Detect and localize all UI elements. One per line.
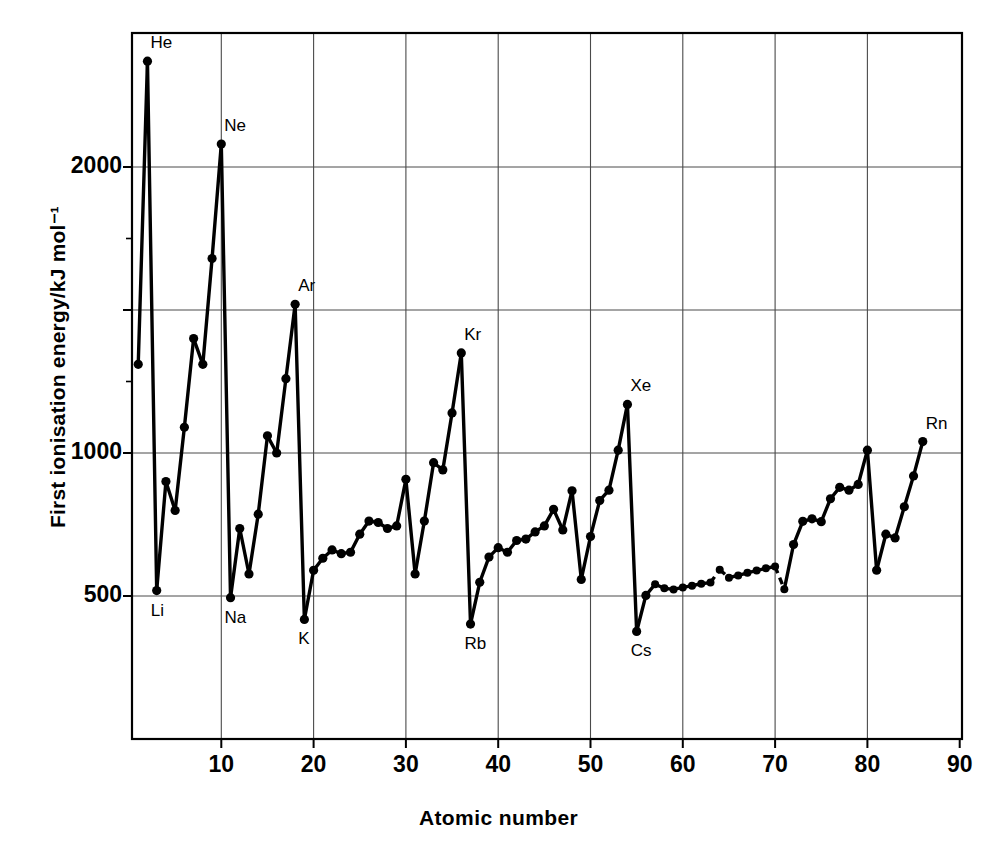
x-tick-label-60: 60 (653, 751, 713, 778)
data-point (743, 569, 751, 577)
data-point (641, 591, 650, 600)
data-point (789, 540, 798, 549)
data-point (725, 574, 733, 582)
data-point (512, 536, 521, 545)
data-point (734, 571, 742, 579)
y-tick-label-500: 500 (20, 581, 122, 608)
x-tick-label-80: 80 (837, 751, 897, 778)
data-point (355, 530, 364, 539)
data-point (198, 360, 207, 369)
data-point (346, 548, 355, 557)
x-tick-label-90: 90 (930, 751, 990, 778)
plot-frame (132, 33, 962, 739)
data-point (152, 586, 161, 595)
data-point (263, 431, 272, 440)
data-point (688, 582, 696, 590)
element-label-rn: Rn (926, 414, 948, 434)
y-axis-title: First ionisation energy/kJ mol⁻¹ (46, 157, 70, 577)
data-point (180, 423, 189, 432)
data-point (577, 575, 586, 584)
element-label-he: He (150, 33, 172, 53)
data-point (567, 486, 576, 495)
data-point (272, 448, 281, 457)
data-point (807, 514, 816, 523)
data-point (670, 585, 678, 593)
x-tick-label-30: 30 (376, 751, 436, 778)
data-point (679, 583, 687, 591)
data-point (161, 477, 170, 486)
data-point (697, 580, 705, 588)
data-point (632, 627, 641, 636)
element-label-cs: Cs (631, 641, 652, 661)
data-point (494, 543, 503, 552)
gridlines (132, 33, 962, 739)
data-point (484, 553, 493, 562)
data-point (420, 516, 429, 525)
data-point (660, 584, 668, 592)
data-point (503, 548, 512, 557)
data-point (771, 563, 779, 571)
data-point (374, 518, 383, 527)
data-point (457, 348, 466, 357)
data-point (531, 527, 540, 536)
element-label-k: K (298, 629, 309, 649)
data-point (826, 494, 835, 503)
data-point (863, 446, 872, 455)
data-point (521, 534, 530, 543)
data-point (254, 510, 263, 519)
data-point (134, 360, 143, 369)
data-point (844, 486, 853, 495)
data-point (623, 400, 632, 409)
data-point (411, 569, 420, 578)
data-point (918, 437, 927, 446)
data-point (466, 619, 475, 628)
element-label-li: Li (151, 601, 164, 621)
data-point (281, 374, 290, 383)
data-point (291, 300, 300, 309)
chart-figure: First ionisation energy/kJ mol⁻¹ Atomic … (0, 0, 997, 854)
data-point (872, 566, 881, 575)
data-point (716, 566, 724, 574)
data-point (189, 334, 198, 343)
data-point (706, 579, 714, 587)
x-tick-label-10: 10 (191, 751, 251, 778)
data-point (171, 506, 180, 515)
data-point (900, 502, 909, 511)
data-point (226, 593, 235, 602)
data-point (549, 505, 558, 514)
data-point (300, 615, 309, 624)
data-point (909, 471, 918, 480)
x-tick-label-20: 20 (284, 751, 344, 778)
x-tick-label-70: 70 (745, 751, 805, 778)
data-point (854, 480, 863, 489)
data-point (337, 549, 346, 558)
chart-canvas (0, 0, 997, 854)
data-series-line (138, 61, 923, 631)
x-axis-title: Atomic number (0, 806, 997, 830)
data-point (817, 517, 826, 526)
data-point (558, 525, 567, 534)
data-point (392, 521, 401, 530)
data-point (586, 532, 595, 541)
data-point (540, 521, 549, 530)
data-point (429, 458, 438, 467)
data-point (881, 530, 890, 539)
data-point (798, 517, 807, 526)
data-point (614, 446, 623, 455)
data-point (595, 496, 604, 505)
data-point (753, 567, 761, 575)
element-label-kr: Kr (464, 325, 481, 345)
data-point (475, 578, 484, 587)
data-point (309, 566, 318, 575)
data-point (604, 486, 613, 495)
x-tick-label-50: 50 (561, 751, 621, 778)
element-label-na: Na (225, 608, 247, 628)
y-tick-label-2000: 2000 (20, 152, 122, 179)
data-point (890, 533, 899, 542)
data-point (318, 554, 327, 563)
data-point (383, 524, 392, 533)
data-point (235, 524, 244, 533)
data-point (438, 465, 447, 474)
data-point (207, 254, 216, 263)
x-tick-label-40: 40 (468, 751, 528, 778)
